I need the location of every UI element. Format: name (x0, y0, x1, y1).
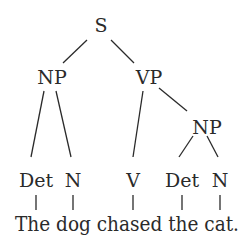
node-np-subject: NP (37, 66, 67, 88)
edge-vp-np (159, 88, 187, 111)
edge-np-n (56, 91, 71, 157)
node-det-subject: Det (19, 169, 53, 191)
tree-edges (31, 40, 218, 157)
node-n-object: N (212, 169, 229, 191)
edge-np-det (31, 91, 44, 157)
sentence-text: The dog chased the cat. (15, 212, 239, 236)
edge-s-np (63, 40, 87, 63)
edge-np-n (207, 136, 218, 157)
edge-np-det (179, 136, 193, 157)
node-vp: VP (135, 66, 163, 88)
node-det-object: Det (165, 169, 199, 191)
edge-vp-v (133, 91, 143, 157)
node-n-subject: N (65, 169, 82, 191)
node-v: V (125, 169, 140, 191)
word-ticks (36, 195, 220, 210)
syntax-tree-diagram: S NP VP NP Det N V Det N The dog chased … (0, 0, 245, 246)
node-np-object: NP (192, 116, 222, 138)
edge-s-vp (111, 40, 134, 63)
node-s: S (94, 14, 107, 36)
